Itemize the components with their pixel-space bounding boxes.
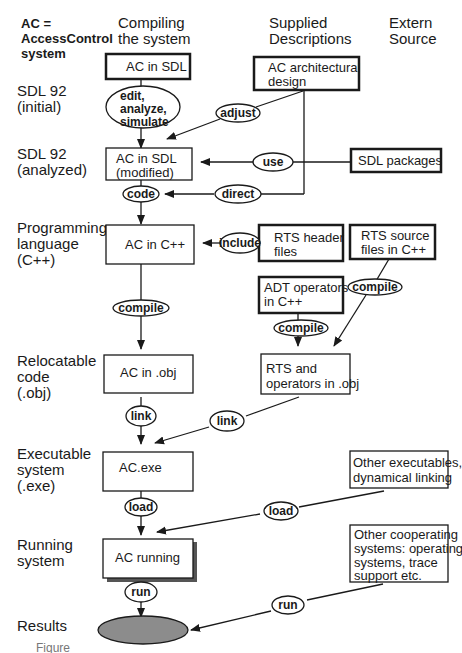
svg-text:Programming: Programming bbox=[17, 219, 107, 236]
svg-text:SDL 92: SDL 92 bbox=[17, 82, 66, 99]
svg-text:compile: compile bbox=[118, 301, 164, 315]
svg-text:systems: operating: systems: operating bbox=[354, 541, 462, 556]
svg-text:AC in SDL: AC in SDL bbox=[116, 151, 177, 166]
svg-text:Results: Results bbox=[17, 617, 67, 634]
column-header-extern: Extern Source bbox=[389, 14, 437, 47]
row-label-results: Results bbox=[17, 617, 67, 634]
svg-text:code: code bbox=[127, 187, 155, 201]
op-direct: direct bbox=[215, 185, 261, 203]
op-load-other: load bbox=[264, 502, 298, 520]
op-use: use bbox=[253, 153, 293, 171]
svg-text:AC =: AC = bbox=[21, 16, 51, 31]
svg-text:(C++): (C++) bbox=[17, 251, 55, 268]
compilation-flow-diagram: AC = AccessControl system Compiling the … bbox=[0, 0, 462, 653]
svg-text:Supplied: Supplied bbox=[269, 14, 327, 31]
svg-text:edit,: edit, bbox=[120, 89, 145, 103]
op-load-ac: load bbox=[125, 498, 157, 516]
svg-text:AC running: AC running bbox=[115, 550, 180, 565]
box-other-executables: Other executables, dynamical linking bbox=[350, 451, 462, 488]
svg-text:adjust: adjust bbox=[220, 106, 255, 120]
box-ac-in-sdl: AC in SDL bbox=[106, 54, 190, 79]
svg-text:Source: Source bbox=[389, 30, 437, 47]
op-link-ac: link bbox=[126, 406, 156, 426]
row-label-relocatable: Relocatable code (.obj) bbox=[17, 352, 96, 401]
svg-text:Relocatable: Relocatable bbox=[17, 352, 96, 369]
svg-text:RTS header: RTS header bbox=[274, 230, 345, 245]
svg-text:direct: direct bbox=[222, 187, 255, 201]
svg-text:AC architectural: AC architectural bbox=[268, 60, 361, 75]
box-rts-header-files: RTS header files bbox=[259, 225, 345, 261]
legend: AC = AccessControl system bbox=[21, 16, 113, 61]
svg-text:simulate: simulate bbox=[120, 115, 169, 129]
svg-text:support etc.: support etc. bbox=[354, 568, 422, 583]
box-ac-in-sdl-modified: AC in SDL (modified) bbox=[106, 148, 192, 180]
op-run-ac: run bbox=[125, 582, 157, 602]
box-ac-architectural-design: AC architectural design bbox=[254, 57, 361, 90]
row-label-programming: Programming language (C++) bbox=[17, 219, 107, 268]
box-adt-operators: ADT operators in C++ bbox=[259, 277, 349, 313]
op-include: include bbox=[219, 233, 261, 253]
svg-text:AC.exe: AC.exe bbox=[119, 460, 162, 475]
svg-text:(.exe): (.exe) bbox=[17, 477, 55, 494]
svg-text:the system: the system bbox=[118, 30, 191, 47]
svg-text:ADT operators: ADT operators bbox=[264, 280, 349, 295]
box-ac-in-obj: AC in .obj bbox=[104, 355, 193, 393]
svg-text:run: run bbox=[131, 585, 150, 599]
op-edit-analyze-simulate: edit, analyze, simulate bbox=[106, 86, 180, 129]
svg-text:Figure: Figure bbox=[36, 641, 70, 653]
svg-text:compile: compile bbox=[278, 321, 324, 335]
svg-text:use: use bbox=[263, 155, 284, 169]
svg-text:operators in .obj: operators in .obj bbox=[266, 376, 359, 391]
svg-text:system: system bbox=[17, 461, 65, 478]
svg-text:Other cooperating: Other cooperating bbox=[354, 527, 458, 542]
svg-text:system: system bbox=[17, 552, 65, 569]
svg-text:design: design bbox=[268, 74, 306, 89]
svg-text:dynamical linking: dynamical linking bbox=[353, 470, 452, 485]
svg-text:AC in C++: AC in C++ bbox=[125, 237, 185, 252]
op-compile-adt: compile bbox=[274, 320, 328, 336]
svg-text:RTS and: RTS and bbox=[266, 361, 317, 376]
svg-text:compile: compile bbox=[352, 280, 398, 294]
svg-text:Executable: Executable bbox=[17, 445, 91, 462]
svg-text:AccessControl: AccessControl bbox=[21, 31, 113, 46]
column-header-compiling: Compiling the system bbox=[118, 14, 191, 47]
figure-caption: Figure bbox=[36, 641, 70, 653]
svg-text:load: load bbox=[269, 504, 294, 518]
box-sdl-packages: SDL packages bbox=[351, 149, 443, 172]
svg-text:SDL 92: SDL 92 bbox=[17, 145, 66, 162]
svg-text:Extern: Extern bbox=[389, 14, 432, 31]
row-label-sdl-initial: SDL 92 (initial) bbox=[17, 82, 66, 115]
svg-text:link: link bbox=[131, 409, 152, 423]
box-ac-running: AC running bbox=[103, 539, 197, 582]
svg-text:system: system bbox=[21, 46, 66, 61]
svg-text:AC in SDL: AC in SDL bbox=[126, 59, 187, 74]
op-adjust: adjust bbox=[216, 104, 260, 122]
op-run-other: run bbox=[272, 596, 304, 614]
results-ellipse bbox=[98, 616, 188, 644]
svg-text:files: files bbox=[274, 244, 298, 259]
op-link-rts: link bbox=[210, 411, 244, 431]
svg-text:AC in .obj: AC in .obj bbox=[120, 365, 176, 380]
box-ac-exe: AC.exe bbox=[103, 452, 193, 491]
svg-text:SDL packages: SDL packages bbox=[358, 153, 443, 168]
svg-text:load: load bbox=[129, 500, 154, 514]
svg-text:include: include bbox=[219, 236, 261, 250]
svg-text:(.obj): (.obj) bbox=[17, 384, 51, 401]
row-label-sdl-analyzed: SDL 92 (analyzed) bbox=[17, 145, 87, 178]
op-compile-rts: compile bbox=[348, 279, 402, 295]
svg-text:code: code bbox=[17, 368, 50, 385]
op-compile-ac: compile bbox=[113, 300, 169, 316]
svg-text:Running: Running bbox=[17, 536, 73, 553]
box-rts-operators-obj: RTS and operators in .obj bbox=[261, 354, 359, 394]
svg-text:run: run bbox=[278, 598, 297, 612]
svg-text:files in C++: files in C++ bbox=[361, 242, 426, 257]
box-rts-source-files: RTS source files in C++ bbox=[350, 225, 435, 259]
svg-text:language: language bbox=[17, 235, 79, 252]
box-other-cooperating-systems: Other cooperating systems: operating sys… bbox=[350, 525, 462, 583]
svg-text:(analyzed): (analyzed) bbox=[17, 161, 87, 178]
svg-text:link: link bbox=[217, 414, 238, 428]
row-label-executable: Executable system (.exe) bbox=[17, 445, 91, 494]
column-header-supplied: Supplied Descriptions bbox=[269, 14, 352, 47]
svg-text:(modified): (modified) bbox=[116, 165, 174, 180]
svg-text:Other executables,: Other executables, bbox=[353, 455, 462, 470]
